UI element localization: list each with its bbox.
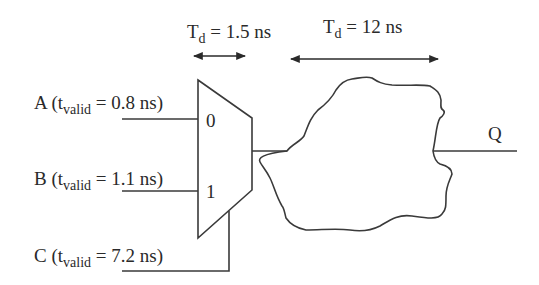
input-b-label: B (tvalid = 1.1 ns) bbox=[34, 168, 163, 193]
logic-delay-label: Td = 12 ns bbox=[323, 16, 402, 41]
timing-diagram: Td = 1.5 ns Td = 12 ns 0 1 A (tvalid = 0… bbox=[0, 0, 539, 285]
logic-cloud bbox=[260, 77, 452, 231]
multiplexer bbox=[198, 80, 252, 238]
output-q-label: Q bbox=[488, 123, 502, 144]
mux-port-1-label: 1 bbox=[206, 181, 216, 202]
input-c-label: C (tvalid = 7.2 ns) bbox=[34, 245, 163, 270]
mux-delay-label: Td = 1.5 ns bbox=[187, 21, 271, 46]
mux-port-0-label: 0 bbox=[206, 110, 216, 131]
input-a-label: A (tvalid = 0.8 ns) bbox=[34, 92, 163, 117]
